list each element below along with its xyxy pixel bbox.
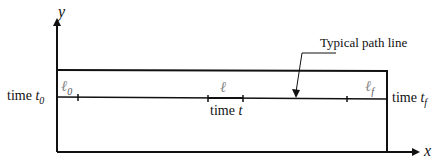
time-t-label: time t (210, 104, 242, 118)
time-t0-label: time t0 (7, 89, 44, 106)
annotation-label: Typical path line (320, 36, 407, 49)
time-symbol: t (238, 103, 242, 118)
ell-f-label: ℓf (365, 79, 374, 97)
time-prefix: time (7, 88, 32, 103)
time-tf-label: time tf (392, 91, 427, 108)
annotation-leader (296, 53, 336, 92)
ell-subscript: 0 (67, 86, 72, 97)
time-prefix: time (392, 90, 417, 105)
ell-subscript: f (371, 86, 374, 97)
ell-label: ℓ (220, 80, 226, 95)
time-prefix: time (210, 103, 235, 118)
time-subscript: f (424, 97, 427, 108)
time-subscript: 0 (39, 95, 44, 106)
region-top-boundary (57, 70, 387, 71)
leader-arrowhead-icon (292, 89, 300, 98)
y-axis-label: y (58, 4, 65, 20)
ell-0-label: ℓ0 (61, 79, 72, 97)
x-axis-label: x (424, 143, 431, 159)
